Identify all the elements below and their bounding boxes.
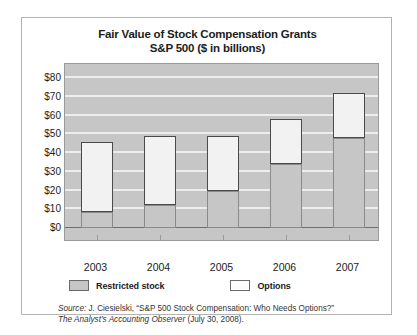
x-axis-tick-mark [97, 235, 98, 240]
bar-stack [333, 93, 365, 228]
bar-stack [144, 136, 176, 228]
x-axis-tick-label-2006: 2006 [255, 261, 315, 273]
y-axis-tick-label: $10 [21, 204, 61, 214]
x-axis-tick-label-2007: 2007 [318, 261, 378, 273]
gridline [65, 76, 378, 78]
chart-figure: Fair Value of Stock Compensation Grants … [21, 17, 392, 315]
x-axis-tick-mark [349, 235, 350, 240]
y-axis-tick-label: $50 [21, 129, 61, 139]
bar-segment-restricted-stock [207, 191, 239, 229]
x-axis-tick-label-2005: 2005 [192, 261, 252, 273]
x-axis-tick-mark [286, 235, 287, 240]
gridline [65, 114, 378, 116]
bar-segment-restricted-stock [333, 138, 365, 228]
x-axis-tick-label-2004: 2004 [129, 261, 189, 273]
y-axis-tick-label: $40 [21, 148, 61, 158]
x-axis-tick-mark [223, 235, 224, 240]
chart-title: Fair Value of Stock Compensation Grants … [22, 27, 393, 55]
restricted-stock-swatch [69, 280, 89, 291]
source-citation: J. Ciesielski, “S&P 500 Stock Compensati… [86, 304, 334, 313]
bar-segment-restricted-stock [270, 164, 302, 228]
bar-segment-options [333, 93, 365, 138]
bar-segment-options [207, 136, 239, 190]
bar-stack [270, 119, 302, 228]
x-axis-tick-mark [160, 235, 161, 240]
legend-label: Options [257, 281, 290, 291]
y-axis-tick-label: $0 [21, 223, 61, 233]
legend-entry-options: Options [230, 280, 290, 291]
plot-area: $0$10$20$30$40$50$60$70$80 [64, 63, 379, 241]
bar-segment-restricted-stock [81, 212, 113, 228]
gridline [65, 95, 378, 97]
source-publication: The Analyst’s Accounting Observer [58, 315, 185, 324]
bar-stack [207, 136, 239, 228]
bar-segment-options [270, 119, 302, 164]
bar-segment-restricted-stock [144, 205, 176, 228]
source-date: (July 30, 2008). [185, 315, 244, 324]
chart-legend: Restricted stockOptions [69, 280, 291, 291]
bar-segment-options [81, 142, 113, 212]
chart-title-line1: Fair Value of Stock Compensation Grants [98, 28, 316, 40]
legend-label: Restricted stock [96, 281, 164, 291]
y-axis-tick-label: $60 [21, 111, 61, 121]
y-axis-tick-label: $20 [21, 186, 61, 196]
source-line-2: The Analyst’s Accounting Observer (July … [58, 314, 378, 325]
bar-segment-options [144, 136, 176, 204]
chart-title-line2: S&P 500 ($ in billions) [22, 41, 393, 55]
options-swatch [230, 280, 250, 291]
source-note: Source: J. Ciesielski, “S&P 500 Stock Co… [58, 303, 378, 325]
source-line-1: Source: J. Ciesielski, “S&P 500 Stock Co… [58, 303, 378, 314]
bar-stack [81, 142, 113, 228]
y-axis-tick-label: $80 [21, 73, 61, 83]
legend-entry-restricted-stock: Restricted stock [69, 280, 164, 291]
y-axis-tick-label: $30 [21, 167, 61, 177]
source-prefix: Source: [58, 304, 86, 313]
x-axis-tick-label-2003: 2003 [66, 261, 126, 273]
gridline [65, 132, 378, 134]
y-axis-tick-label: $70 [21, 92, 61, 102]
